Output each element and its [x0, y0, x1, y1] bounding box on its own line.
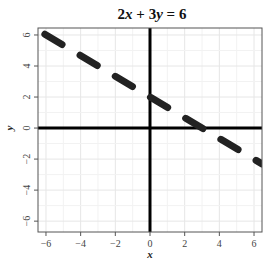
x-tick-label: 2	[182, 238, 187, 249]
y-tick-label: 6	[21, 32, 32, 37]
chart-title-text: 2x + 3y = 6	[118, 6, 187, 22]
x-tick-label: −2	[110, 238, 121, 249]
title-part: + 3	[133, 6, 157, 22]
y-tick-label: 0	[21, 126, 32, 131]
y-tick-label: 4	[21, 64, 32, 69]
chart-title: 2x + 3y = 6	[118, 6, 187, 22]
title-part: y	[154, 6, 163, 22]
y-axis-label: y	[3, 126, 15, 133]
reference-axes	[38, 28, 262, 232]
y-tick-label: 2	[21, 95, 32, 100]
y-tick-label: −6	[21, 216, 32, 227]
y-axis-ticks: −6−4−20246	[21, 32, 38, 226]
x-tick-label: 6	[252, 238, 257, 249]
chart: 2x + 3y = 6 −6−4−20246 −6−4−20246 x y	[0, 0, 269, 267]
x-tick-label: −4	[75, 238, 86, 249]
x-tick-label: 4	[217, 238, 222, 249]
title-part: 2	[118, 6, 126, 22]
title-part: = 6	[163, 6, 187, 22]
x-axis-ticks: −6−4−20246	[41, 232, 257, 249]
x-tick-label: −6	[41, 238, 52, 249]
y-tick-label: −4	[21, 185, 32, 196]
y-tick-label: −2	[21, 154, 32, 165]
x-axis-label: x	[146, 248, 153, 260]
